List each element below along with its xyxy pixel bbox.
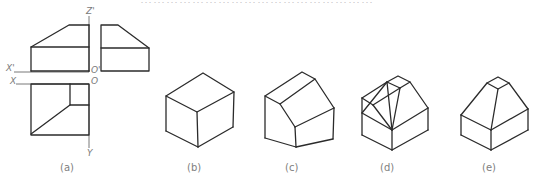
label-y: Y xyxy=(87,148,94,158)
label-x: X xyxy=(9,76,17,86)
label-o: O xyxy=(91,76,98,86)
figure-a-orthographic: Z' X' X O' O Y (a) xyxy=(5,6,149,173)
figure-d-construction: (d) xyxy=(362,76,428,173)
label-z-prime: Z' xyxy=(85,6,95,16)
caption-d: (d) xyxy=(380,162,394,173)
caption-c: (c) xyxy=(285,162,298,173)
figure-b-box: (b) xyxy=(166,73,234,173)
caption-a: (a) xyxy=(60,162,74,173)
front-view xyxy=(31,25,89,71)
caption-b: (b) xyxy=(187,162,201,173)
caption-e: (e) xyxy=(482,162,496,173)
label-o-prime: O' xyxy=(91,65,101,75)
technical-drawing: Z' X' X O' O Y (a) (b) (c) xyxy=(0,0,536,181)
side-view xyxy=(101,25,149,71)
label-x-prime: X' xyxy=(5,63,15,73)
top-view xyxy=(31,84,89,135)
figure-e-final: (e) xyxy=(461,77,528,173)
figure-c-sloped: (c) xyxy=(265,72,334,173)
